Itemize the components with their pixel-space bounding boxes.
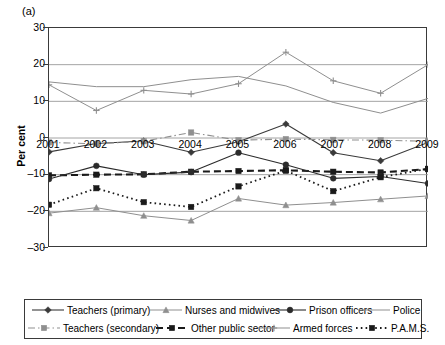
legend-row-1: Teachers (primary)Nurses and midwivesPri…	[25, 301, 421, 319]
legend-key-icon	[273, 304, 307, 316]
y-tick-mark	[43, 100, 48, 101]
legend-row-2: Teachers (secondary)Other public sectorA…	[25, 319, 421, 337]
x-tick-label: 2008	[368, 139, 391, 150]
y-tick-mark	[43, 247, 48, 248]
legend-item[interactable]: P.A.M.S.	[355, 322, 429, 334]
legend-label: P.A.M.S.	[391, 323, 429, 334]
legend-item[interactable]: Police	[357, 304, 420, 316]
legend-key-icon	[31, 304, 65, 316]
legend-key-icon	[357, 304, 391, 316]
x-tick-label: 2007	[321, 139, 344, 150]
legend-item[interactable]: Nurses and midwives	[149, 304, 280, 316]
legend-item[interactable]: Teachers (secondary)	[27, 322, 159, 334]
x-tick-label: 2004	[178, 139, 201, 150]
chart-legend: Teachers (primary)Nurses and midwivesPri…	[24, 299, 422, 339]
y-tick-mark	[43, 27, 48, 28]
x-tick-label: 2006	[273, 139, 296, 150]
y-tick-mark	[43, 174, 48, 175]
x-tick-label: 2009	[415, 139, 438, 150]
legend-label: Police	[393, 305, 420, 316]
y-tick-label: –10	[3, 168, 45, 178]
y-tick-label: 20	[3, 58, 45, 68]
legend-item[interactable]: Teachers (primary)	[31, 304, 150, 316]
legend-label: Teachers (secondary)	[63, 323, 159, 334]
y-tick-mark	[43, 64, 48, 65]
legend-label: Teachers (primary)	[67, 305, 150, 316]
legend-item[interactable]: Armed forces	[257, 322, 352, 334]
y-tick-label: –20	[3, 205, 45, 215]
y-tick-mark	[43, 210, 48, 211]
legend-label: Armed forces	[293, 323, 352, 334]
panel-label: (a)	[22, 5, 35, 17]
legend-key-icon	[257, 322, 291, 334]
legend-label: Nurses and midwives	[185, 305, 280, 316]
chart-figure: (a) Per cent 3020100–10–20–30 2001200220…	[0, 0, 445, 345]
legend-key-icon	[155, 322, 189, 334]
legend-key-icon	[27, 322, 61, 334]
legend-key-icon	[149, 304, 183, 316]
y-tick-label: 10	[3, 95, 45, 105]
legend-key-icon	[355, 322, 389, 334]
y-tick-label: 30	[3, 22, 45, 32]
x-tick-label: 2005	[226, 139, 249, 150]
y-tick-mark	[43, 137, 48, 138]
y-axis-tick-labels: 3020100–10–20–30	[0, 27, 45, 247]
y-tick-label: –30	[3, 242, 45, 252]
x-axis-tick-labels: 200120022003200420052006200720082009	[48, 0, 427, 345]
x-tick-label: 2002	[84, 139, 107, 150]
x-tick-label: 2003	[131, 139, 154, 150]
x-tick-label: 2001	[36, 139, 59, 150]
